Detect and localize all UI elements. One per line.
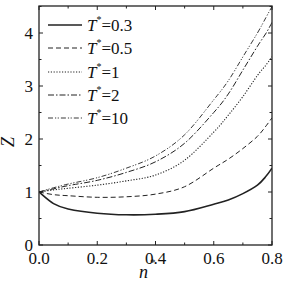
- axes: 0.00.20.40.60.801234: [25, 6, 283, 268]
- legend: T*=0.3T*=0.5T*=1T*=2T*=10: [48, 14, 132, 128]
- x-tick-label: 0.4: [145, 249, 167, 268]
- legend-label: T*=10: [87, 107, 128, 128]
- x-tick-label: 0.6: [203, 249, 224, 268]
- y-tick-label: 0: [25, 236, 34, 255]
- x-axis-label: n: [139, 262, 148, 282]
- curve-t--10: [39, 7, 272, 193]
- x-tick-label: 0.2: [87, 249, 108, 268]
- plot-frame: [39, 6, 272, 245]
- legend-label: T*=1: [87, 61, 120, 82]
- y-tick-label: 3: [25, 77, 34, 96]
- legend-label: T*=0.3: [87, 14, 132, 35]
- legend-label: T*=0.5: [87, 37, 132, 58]
- curve-t--0-5: [39, 118, 272, 198]
- y-tick-label: 1: [25, 183, 34, 202]
- line-chart: 0.00.20.40.60.801234 T*=0.3T*=0.5T*=1T*=…: [0, 0, 286, 300]
- x-axis-label-sup: *: [150, 256, 156, 268]
- curve-t--1: [39, 57, 272, 192]
- legend-label: T*=2: [87, 84, 120, 105]
- y-tick-label: 2: [25, 130, 34, 149]
- y-axis-label: Z: [0, 136, 18, 147]
- x-tick-label: 0.8: [261, 249, 282, 268]
- y-tick-label: 4: [25, 24, 34, 43]
- data-curves: [39, 7, 272, 215]
